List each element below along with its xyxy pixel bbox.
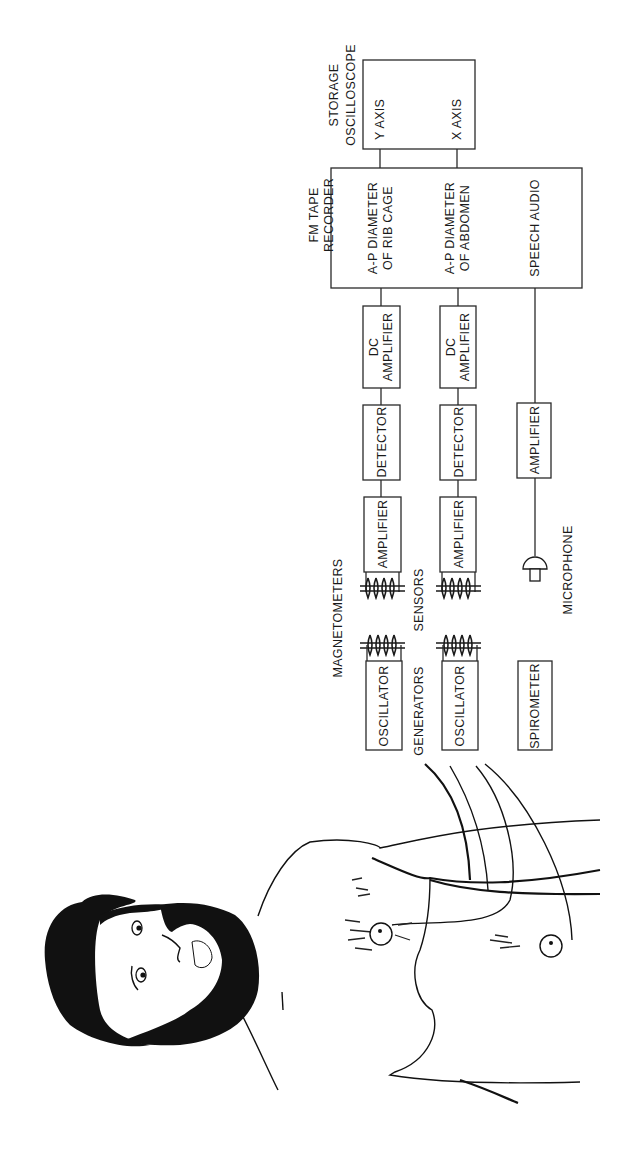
oscillator-2: OSCILLATOR xyxy=(442,661,478,750)
eye-left-icon xyxy=(132,921,142,935)
diagram-canvas: STORAGE OSCILLOSCOPE Y AXIS X AXIS FM TA… xyxy=(0,0,642,1167)
mouth xyxy=(192,941,212,968)
channel-abdomen-line1: A-P DIAMETER xyxy=(443,182,457,274)
dc-amplifier-2: DC AMPLIFIER xyxy=(440,306,476,388)
cable-1 xyxy=(425,764,470,880)
sensors-label: SENSORS xyxy=(412,568,426,631)
magnetometers-label: MAGNETOMETERS xyxy=(331,559,345,678)
oscillator-1: OSCILLATOR xyxy=(366,661,402,750)
cable-to-chest-sensor xyxy=(392,766,513,925)
oscilloscope-title-1: STORAGE xyxy=(327,64,341,127)
sensor-coil-2-icon xyxy=(436,572,481,598)
amplifier-1: AMPLIFIER xyxy=(364,497,401,572)
generator-coil-1-icon xyxy=(360,635,405,661)
abdomen-sensor-disc-icon xyxy=(540,935,562,957)
channel-ribcage-line1: A-P DIAMETER xyxy=(366,182,380,274)
spirometer-label: SPIROMETER xyxy=(528,663,542,749)
dc-amp-2-line2: AMPLIFIER xyxy=(458,313,472,382)
oscillator-1-label: OSCILLATOR xyxy=(377,665,391,746)
detector-2: DETECTOR xyxy=(440,405,476,480)
storage-oscilloscope: STORAGE OSCILLOSCOPE Y AXIS X AXIS xyxy=(327,44,475,149)
generators-label: GENERATORS xyxy=(412,666,426,755)
eye-right-icon xyxy=(136,968,146,982)
dc-amp-2-line1: DC xyxy=(444,338,458,357)
detector-1: DETECTOR xyxy=(363,405,400,480)
detector-1-label: DETECTOR xyxy=(375,407,389,478)
block-diagram: STORAGE OSCILLOSCOPE Y AXIS X AXIS FM TA… xyxy=(0,0,642,1167)
neck-line xyxy=(282,992,283,1010)
amplifier-1-label: AMPLIFIER xyxy=(376,500,390,569)
spirometer: SPIROMETER xyxy=(518,661,552,750)
head xyxy=(45,895,259,1047)
chest-outline xyxy=(390,878,580,1083)
cable-to-abdomen-sensor xyxy=(485,764,572,940)
microphone-label: MICROPHONE xyxy=(561,525,575,614)
fm-tape-recorder: FM TAPE RECORDER A-P DIAMETER OF RIB CAG… xyxy=(307,168,582,288)
amplifier-2-label: AMPLIFIER xyxy=(452,500,466,569)
dc-amplifier-1: DC AMPLIFIER xyxy=(363,306,400,388)
chest-sensor-disc-icon xyxy=(370,923,392,945)
generator-coil-2-icon xyxy=(436,635,481,661)
detector-2-label: DETECTOR xyxy=(452,407,466,478)
channel-abdomen-line2: OF ABDOMEN xyxy=(458,185,472,271)
microphone-icon xyxy=(523,557,547,581)
oscillator-2-label: OSCILLATOR xyxy=(453,665,467,746)
recorder-title-1: FM TAPE xyxy=(307,187,321,242)
speech-amplifier: AMPLIFIER xyxy=(517,403,551,478)
channel-ribcage-line2: OF RIB CAGE xyxy=(381,186,395,270)
amplifier-2: AMPLIFIER xyxy=(440,497,476,572)
channel-speech-audio: SPEECH AUDIO xyxy=(528,179,542,276)
back-outline xyxy=(240,1011,278,1090)
nose xyxy=(162,935,180,962)
sensor-coil-1-icon xyxy=(360,572,405,598)
subject-illustration xyxy=(45,764,600,1103)
oscilloscope-title-2: OSCILLOSCOPE xyxy=(344,44,358,146)
hair xyxy=(45,895,150,1047)
y-axis-input-label: Y AXIS xyxy=(373,99,387,140)
recorder-title-2: RECORDER xyxy=(322,178,336,252)
speech-amplifier-label: AMPLIFIER xyxy=(528,406,542,475)
dc-amp-1-line2: AMPLIFIER xyxy=(381,313,395,382)
x-axis-input-label: X AXIS xyxy=(450,99,464,140)
dc-amp-1-line1: DC xyxy=(367,338,381,357)
